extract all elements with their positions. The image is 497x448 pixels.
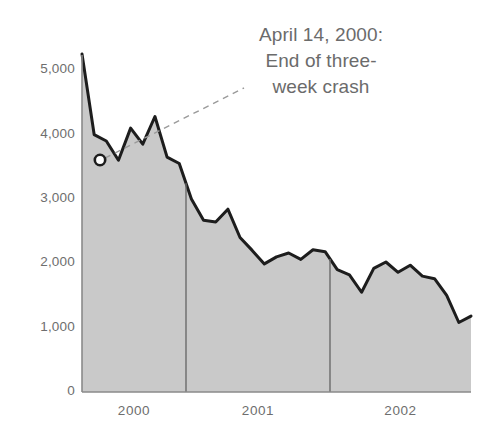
annotation-line-2: End of three- [196, 48, 446, 74]
annotation-point-marker [95, 155, 105, 165]
series-area [82, 54, 471, 392]
chart-figure: 5,0004,0003,0002,0001,0000 200020012002 … [0, 0, 497, 448]
x-tick-label-2002: 2002 [361, 403, 441, 418]
y-tick-label-3000: 3,000 [40, 190, 75, 205]
y-tick-label-2000: 2,000 [40, 254, 75, 269]
y-tick-label-5000: 5,000 [40, 61, 75, 76]
annotation-line-3: week crash [196, 74, 446, 100]
y-tick-label-0: 0 [67, 383, 75, 398]
x-tick-label-2001: 2001 [218, 403, 298, 418]
x-tick-label-2000: 2000 [94, 403, 174, 418]
y-tick-label-1000: 1,000 [40, 319, 75, 334]
annotation-line-1: April 14, 2000: [196, 22, 446, 48]
annotation-text-block: April 14, 2000: End of three- week crash [196, 22, 446, 100]
y-tick-label-4000: 4,000 [40, 126, 75, 141]
